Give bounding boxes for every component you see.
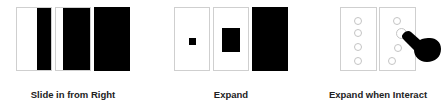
hand-pointer-icon <box>400 29 444 65</box>
circle-icon <box>354 57 362 65</box>
slide-fill <box>63 8 90 70</box>
circle-icon <box>354 17 362 25</box>
circle-icon <box>354 29 362 37</box>
slide-frame-3 <box>94 7 130 71</box>
circle-icon <box>388 57 396 65</box>
slide-frame-2 <box>55 7 91 71</box>
expand-medium-rect <box>222 28 240 52</box>
expand-frame-2 <box>213 7 249 71</box>
circle-icon <box>354 43 362 51</box>
circle-icon <box>393 17 401 25</box>
expand-frame-3 <box>252 7 288 71</box>
expand-frame-1 <box>174 7 210 71</box>
expand-interact-label: Expand when Interact <box>329 89 427 100</box>
slide-in-label: Slide in from Right <box>31 89 115 100</box>
expand-small-square <box>189 38 196 45</box>
slide-fill <box>37 8 51 70</box>
slide-frame-1 <box>16 7 52 71</box>
interact-frame-1 <box>340 7 377 71</box>
expand-label: Expand <box>214 89 248 100</box>
